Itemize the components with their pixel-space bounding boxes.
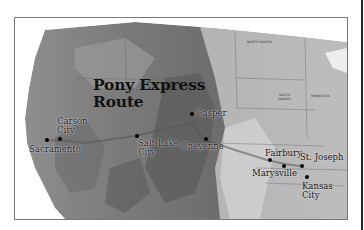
city-label-casper: Casper	[196, 109, 226, 118]
city-marker-casper[interactable]	[190, 112, 194, 116]
map-title-line2: Route	[93, 93, 205, 110]
map-title: Pony Express Route	[93, 76, 205, 110]
city-label-cheyenne: Cheyenne	[181, 142, 224, 151]
city-label-st-joseph: St. Joseph	[300, 153, 343, 162]
city-label-sacramento: Sacramento	[29, 145, 81, 154]
map-title-line1: Pony Express	[93, 76, 205, 93]
city-label-marysville: Marysville	[252, 169, 297, 178]
city-label-carson-city: CarsonCity	[57, 117, 88, 135]
state-label-south-dakota-line2: DAKOTA	[278, 97, 291, 101]
map-frame: NORTH DAKOTA SOUTH DAKOTA MINNESOTA Pony…	[14, 17, 348, 220]
city-marker-st-joseph[interactable]	[300, 164, 304, 168]
city-marker-sacramento[interactable]	[45, 138, 49, 142]
city-label-fairbury: Fairbury	[265, 149, 302, 158]
city-marker-kansas-city[interactable]	[305, 175, 309, 179]
city-label-kansas-city: KansasCity	[302, 182, 333, 200]
state-label-north-dakota: NORTH DAKOTA	[247, 40, 272, 44]
state-label-minnesota: MINNESOTA	[311, 94, 330, 98]
city-marker-carson-city[interactable]	[58, 137, 62, 141]
page-edge-rule	[361, 0, 363, 230]
city-label-salt-lake-city: Salt LakeCity	[138, 139, 179, 157]
city-marker-fairbury[interactable]	[268, 158, 272, 162]
